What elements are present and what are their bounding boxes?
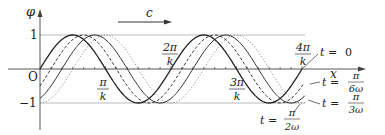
- velocity-arrowhead-icon: [164, 20, 172, 25]
- x-tick-pi-over-k: π k: [97, 76, 109, 103]
- svg-text:0: 0: [345, 46, 352, 59]
- y-tick-1: 1: [30, 28, 38, 42]
- svg-text:π: π: [288, 107, 296, 118]
- velocity-label: c: [146, 6, 153, 20]
- label-t-pi-over-3omega: t = π 3ω: [308, 91, 364, 115]
- svg-text:π: π: [352, 91, 360, 102]
- svg-text:k: k: [234, 90, 241, 103]
- svg-text:2ω: 2ω: [284, 121, 300, 132]
- x-tick-4pi-over-k: 4π k: [295, 41, 311, 68]
- y-tick-minus-1: −1: [19, 96, 37, 110]
- svg-text:t =: t =: [322, 97, 339, 110]
- svg-text:4π: 4π: [295, 41, 311, 54]
- origin-label: O: [28, 70, 38, 84]
- x-tick-2pi-over-k: 2π k: [162, 41, 178, 68]
- x-tick-3pi-over-k: 3π k: [229, 76, 245, 103]
- y-axis-label: φ: [26, 4, 36, 19]
- svg-text:k: k: [167, 55, 174, 68]
- svg-text:t =: t =: [320, 46, 337, 59]
- wave-diagram: c φ x O 1 −1 π k 2π k 3π k 4π k t = 0 t …: [0, 0, 385, 135]
- svg-text:t =: t =: [322, 76, 339, 89]
- y-axis-arrow-icon: [38, 9, 43, 17]
- svg-text:3ω: 3ω: [349, 104, 364, 115]
- svg-text:2π: 2π: [162, 41, 178, 54]
- svg-text:t =: t =: [260, 114, 277, 127]
- label-t-pi-over-2omega: t = π 2ω: [260, 104, 300, 132]
- svg-text:k: k: [100, 90, 107, 103]
- svg-text:π: π: [352, 70, 360, 81]
- svg-text:3π: 3π: [230, 76, 245, 89]
- svg-text:π: π: [98, 76, 107, 89]
